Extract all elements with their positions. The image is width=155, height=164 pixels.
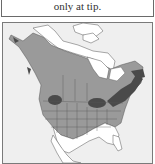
range-map xyxy=(2,22,153,164)
caption-text: only at tip. xyxy=(2,0,153,12)
caption-box: only at tip. xyxy=(1,0,154,17)
north-america-map xyxy=(3,23,152,163)
